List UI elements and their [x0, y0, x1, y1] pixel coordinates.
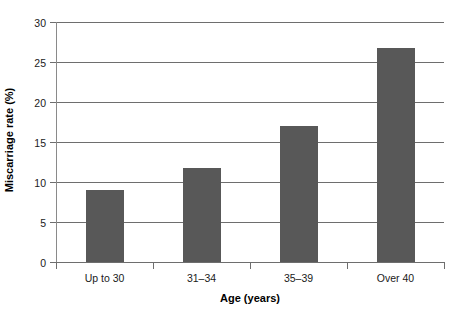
x-category-label-up-to-30: Up to 30 — [56, 272, 153, 284]
gridline-30 — [56, 22, 444, 23]
x-tick-mark-4 — [444, 263, 445, 269]
x-tick-mark-3 — [347, 263, 348, 269]
y-tick-label-15: 15 — [6, 138, 46, 148]
x-category-label-35-39: 35–39 — [250, 272, 347, 284]
x-tick-mark-2 — [250, 263, 251, 269]
y-tick-label-5: 5 — [6, 218, 46, 228]
x-axis-title: Age (years) — [56, 292, 444, 305]
y-tick-label-30: 30 — [6, 18, 46, 28]
bar-chart: Miscarriage rate (%) 30 25 20 15 10 5 0 … — [0, 0, 454, 320]
bar-over-40 — [377, 48, 415, 262]
y-tick-label-25: 25 — [6, 58, 46, 68]
y-tick-label-0: 0 — [6, 258, 46, 268]
bar-35-39 — [280, 126, 318, 262]
bar-31-34 — [183, 168, 221, 262]
x-category-label-31-34: 31–34 — [153, 272, 250, 284]
y-axis-line — [56, 22, 57, 263]
x-tick-mark-0 — [56, 263, 57, 269]
plot-area — [56, 22, 444, 262]
x-category-label-over-40: Over 40 — [347, 272, 444, 284]
y-tick-label-10: 10 — [6, 178, 46, 188]
x-tick-mark-1 — [153, 263, 154, 269]
y-tick-label-20: 20 — [6, 98, 46, 108]
bar-up-to-30 — [86, 190, 124, 262]
